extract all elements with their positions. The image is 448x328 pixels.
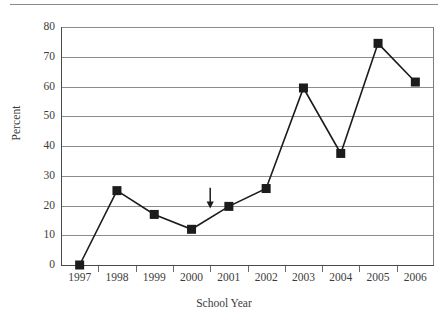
data-point-1998 xyxy=(112,186,121,195)
data-point-2005 xyxy=(374,39,383,48)
data-point-2003 xyxy=(299,83,308,92)
data-point-2006 xyxy=(411,78,420,87)
x-tick-label-2006: 2006 xyxy=(393,271,437,283)
annotation-down-arrow xyxy=(207,188,214,209)
arrow-head xyxy=(207,201,214,208)
series-line xyxy=(80,43,416,265)
chart-figure: Percent School Year 01020304050607080 19… xyxy=(0,0,448,328)
data-point-1997 xyxy=(75,261,84,270)
data-point-2000 xyxy=(187,225,196,234)
data-point-2001 xyxy=(224,202,233,211)
data-point-2002 xyxy=(262,184,271,193)
data-point-1999 xyxy=(150,210,159,219)
data-point-2004 xyxy=(336,149,345,158)
